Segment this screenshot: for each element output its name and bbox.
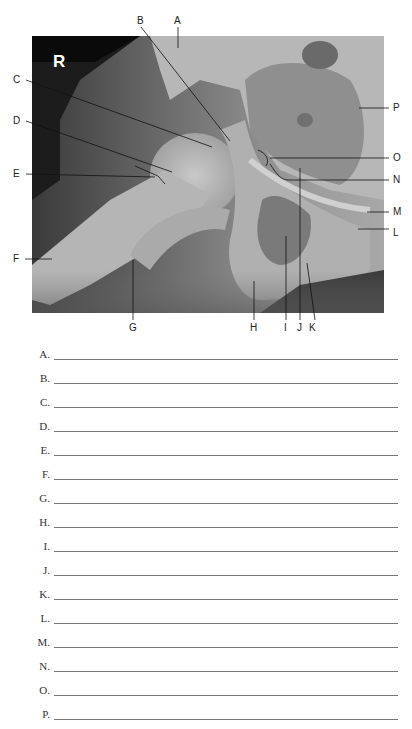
label-c: C [13,75,20,85]
label-e: E [13,169,20,179]
answer-row-i: I. [0,532,412,556]
label-l: L [393,228,399,238]
label-a: A [174,16,181,26]
label-p: P [393,103,400,113]
answer-letter: F. [42,468,50,480]
answer-row-p: P. [0,700,412,724]
answer-letter: O. [39,684,50,696]
label-j: J [297,323,302,333]
answer-blank-d[interactable] [54,431,398,432]
answer-blank-e[interactable] [54,455,398,456]
answer-blank-n[interactable] [54,671,398,672]
xray-image: R [0,0,412,340]
answer-letter: C. [40,396,50,408]
label-h: H [250,323,257,333]
label-k: K [309,323,316,333]
answer-row-a: A. [0,340,412,364]
answer-row-b: B. [0,364,412,388]
answer-row-j: J. [0,556,412,580]
side-marker: R [53,52,65,71]
answer-letter: G. [39,492,50,504]
answer-blank-k[interactable] [54,599,398,600]
answer-row-d: D. [0,412,412,436]
answer-letter: P. [42,708,50,720]
label-d: D [13,116,20,126]
answer-letter: I. [44,540,50,552]
label-m: M [393,207,401,217]
answer-row-g: G. [0,484,412,508]
hip-radiograph-figure: R B A C D E F G H I J K L M N O [0,0,412,340]
answer-letter: H. [39,516,50,528]
answer-row-h: H. [0,508,412,532]
answer-blank-o[interactable] [54,695,398,696]
label-g: G [129,323,137,333]
answer-row-c: C. [0,388,412,412]
answer-blank-a[interactable] [54,359,398,360]
label-i: I [284,323,287,333]
answer-row-e: E. [0,436,412,460]
answer-letter: M. [37,636,50,648]
label-o: O [393,153,401,163]
label-n: N [393,175,400,185]
answer-blank-h[interactable] [54,527,398,528]
answer-letter: N. [39,660,50,672]
answer-letter: A. [39,348,50,360]
answer-blank-m[interactable] [54,647,398,648]
label-b: B [137,16,144,26]
answer-row-l: L. [0,604,412,628]
answer-letter: E. [41,444,50,456]
answer-row-m: M. [0,628,412,652]
answer-letter: L. [41,612,50,624]
answer-letter: K. [39,588,50,600]
answer-blank-p[interactable] [54,719,398,720]
answer-row-f: F. [0,460,412,484]
answer-blank-b[interactable] [54,383,398,384]
answer-blank-l[interactable] [54,623,398,624]
answer-blank-f[interactable] [54,479,398,480]
answer-letter: B. [40,372,50,384]
answer-blank-j[interactable] [54,575,398,576]
label-f: F [13,254,19,264]
answer-blank-c[interactable] [54,407,398,408]
answer-letter: J. [43,564,50,576]
answer-row-n: N. [0,652,412,676]
answer-blank-g[interactable] [54,503,398,504]
answer-row-o: O. [0,676,412,700]
answer-letter: D. [39,420,50,432]
answer-blank-i[interactable] [54,551,398,552]
answer-row-k: K. [0,580,412,604]
